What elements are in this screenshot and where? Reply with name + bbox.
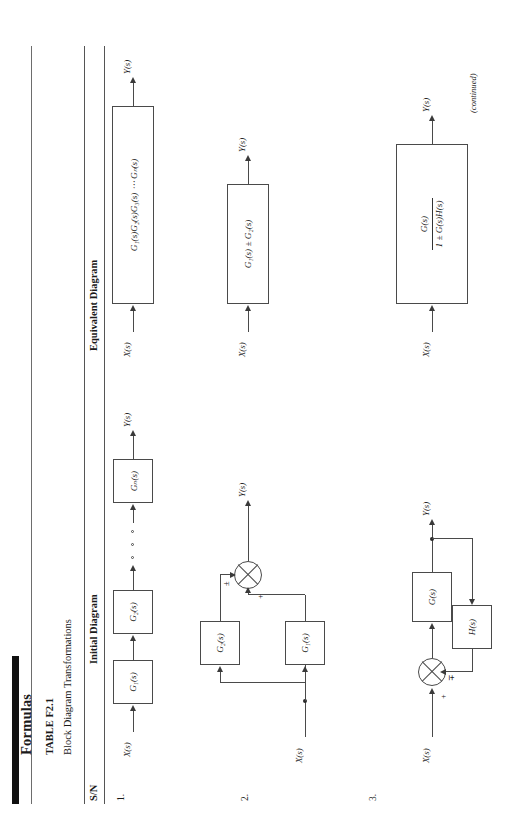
table-number: TABLE F2.1 [44,698,55,755]
row-1-block-gn: Gₙ(s) [113,459,153,503]
arrow-icon [245,587,251,593]
row-2-block-g2-label: G₂(s) [215,633,225,653]
row-3-initial-output-label: Y(s) [421,502,431,516]
wire [133,640,134,660]
wire [472,649,473,672]
row-2-initial-output-label: Y(s) [237,483,247,497]
wire [305,701,306,737]
column-header-initial-diagram: Initial Diagram [88,594,99,664]
wire [305,595,306,621]
wire [248,505,249,561]
wire [133,710,134,732]
arrow-icon [217,666,223,672]
row-3-sum-sign-mp: ∓ [446,674,456,681]
arrow-icon [230,572,236,578]
header-top-rule [31,46,32,804]
arrow-icon [245,500,251,506]
page-root: Formulas TABLE F2.1 Block Diagram Transf… [0,0,513,829]
arrow-icon [130,565,136,571]
wire [248,310,249,332]
wire [432,524,433,572]
column-header-equivalent-diagram: Equivalent Diagram [88,260,99,351]
fraction-bar [432,198,433,251]
wire [432,120,433,144]
row-1-block-g1-label: G₁(s) [128,672,138,692]
table-caption: Block Diagram Transformations [62,619,73,755]
row-2-equivalent-output-label: Y(s) [237,138,247,152]
row-3-equivalent-output-label: Y(s) [421,98,431,112]
arrow-icon [429,305,435,311]
arrow-icon [130,705,136,711]
row-1-block-gn-label: Gₙ(s) [128,471,139,491]
row-2-block-g1-label: G₁(s) [300,633,310,653]
row-2-equivalent-input-label: X(s) [237,342,247,357]
row-3-equivalent-fraction: G(s) 1 ± G(s)H(s) [419,198,444,251]
wire [133,435,134,459]
arrow-icon [130,77,136,83]
row-1-equivalent-block: G₁(s)G₂(s)G₃(s) ⋯ Gₙ(s) [112,106,154,304]
wire [133,310,134,332]
row-1-initial-input-label: X(s) [122,742,132,757]
column-header-sn: S/N [88,785,99,801]
row-2-equivalent-expression: G₁(s) ± G₂(s) [243,220,253,269]
wire [472,538,473,599]
arrow-icon [429,115,435,121]
wire [248,160,249,184]
ellipsis-dot-icon [131,530,134,533]
wire [133,570,134,590]
row-3-initial-input-label: X(s) [421,748,431,763]
arrow-icon [130,635,136,641]
arrow-icon [130,504,136,510]
row-1-block-g2-label: G₂(s) [128,602,138,622]
wire [133,509,134,523]
ellipsis-dot-icon [131,556,134,559]
arrow-icon [302,666,308,672]
row-2-initial-input-label: X(s) [294,748,304,763]
ellipsis-dot-icon [131,543,134,546]
arrow-icon [245,155,251,161]
wire [220,575,221,621]
arrow-icon [429,688,435,694]
row-number-1: 1. [116,794,126,801]
row-2-equivalent-block: G₁(s) ± G₂(s) [227,184,269,304]
row-2-summing-junction [234,561,262,589]
wire [432,310,433,332]
row-3-block-g-label: G(s) [427,589,437,605]
row-number-2: 2. [240,794,250,801]
row-3-block-h-label: H(s) [467,619,477,635]
wire [432,538,472,539]
row-3-initial-diagram: X(s) + G(s) Y(s) H(s) ∓ [0,801,28,829]
row-3-sum-sign-plus: + [439,694,448,699]
row-number-3: 3. [368,794,378,801]
row-1-block-g1: G₁(s) [113,660,153,704]
row-1-block-g2: G₂(s) [113,590,153,634]
row-2-block-g1: G₁(s) [285,621,325,665]
row-2-sum-sign-pm: ± [222,582,231,587]
row-3-equivalent-input-label: X(s) [421,342,431,357]
row-1-equivalent-expression: G₁(s)G₂(s)G₃(s) ⋯ Gₙ(s) [128,159,139,252]
page-title: Formulas [18,694,35,755]
row-3-block-h: H(s) [452,605,492,649]
wire [220,682,305,683]
arrow-icon [130,430,136,436]
wire [432,628,433,658]
row-3-block-g: G(s) [412,572,452,622]
row-1-equivalent-input-label: X(s) [122,342,132,357]
row-3-equivalent-block: G(s) 1 ± G(s)H(s) [396,144,468,304]
arrow-icon [245,305,251,311]
wire [133,82,134,106]
row-1-initial-output-label: Y(s) [122,413,132,427]
arrow-icon [429,519,435,525]
row-3-equivalent-numerator: G(s) [419,198,430,251]
row-1-equivalent-output-label: Y(s) [122,60,132,74]
row-2-sum-sign-plus: + [256,594,265,599]
wire [446,671,472,672]
continued-note: (continued) [468,73,478,113]
wire [220,671,221,683]
row-3-equivalent-denominator: 1 ± G(s)H(s) [434,198,445,251]
arrow-icon [130,305,136,311]
table-head-rule-top [84,46,85,804]
wire [432,693,433,737]
row-2-block-g2: G₂(s) [200,621,240,665]
rotated-page-canvas: Formulas TABLE F2.1 Block Diagram Transf… [0,0,513,829]
